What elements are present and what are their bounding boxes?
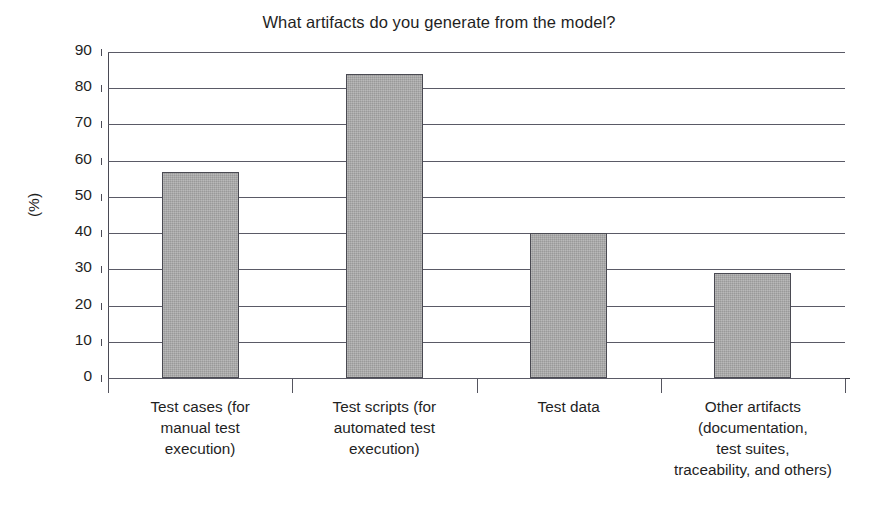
x-axis-category-label: Test cases (for manual test execution) [102, 396, 298, 459]
y-axis-label: (%) [25, 185, 43, 225]
y-axis-tick-mark [101, 303, 102, 310]
bar [714, 273, 791, 378]
y-axis-tick-mark [101, 375, 102, 382]
y-axis-tick-mark [101, 339, 102, 346]
chart-title: What artifacts do you generate from the … [0, 13, 878, 32]
category-separator-tick [292, 379, 293, 393]
y-axis-tick-label: 50 [48, 186, 92, 204]
y-axis-tick-label: 60 [48, 150, 92, 168]
category-separator-tick [661, 379, 662, 393]
y-axis-tick-mark [101, 85, 102, 92]
bar-chart: What artifacts do you generate from the … [0, 0, 878, 512]
x-axis-category-label: Test scripts (for automated test executi… [286, 396, 482, 459]
y-axis-tick-label: 80 [48, 77, 92, 95]
category-separator-tick [845, 379, 846, 393]
y-axis-tick-label: 20 [48, 295, 92, 313]
y-axis-tick-mark [101, 194, 102, 201]
bar [530, 233, 607, 378]
bar [346, 74, 423, 378]
y-axis-tick-label: 0 [48, 367, 92, 385]
y-axis-tick-label: 70 [48, 113, 92, 131]
y-axis-tick-mark [101, 49, 102, 56]
y-axis-tick-label: 40 [48, 222, 92, 240]
y-axis-tick-mark [101, 230, 102, 237]
plot-area [108, 52, 845, 378]
y-axis-tick-label: 30 [48, 258, 92, 276]
category-separator-tick [108, 379, 109, 393]
x-axis-category-label: Test data [471, 396, 667, 417]
category-separator-tick [477, 379, 478, 393]
y-axis-tick-mark [101, 158, 102, 165]
y-axis-tick-label: 10 [48, 331, 92, 349]
bar [162, 172, 239, 378]
y-axis-tick-mark [101, 121, 102, 128]
y-axis-tick-label: 90 [48, 41, 92, 59]
y-axis-tick-mark [101, 266, 102, 273]
x-axis-category-label: Other artifacts (documentation, test sui… [655, 396, 851, 480]
